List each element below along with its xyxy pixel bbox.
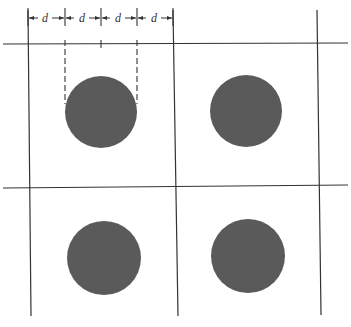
dimension-segment-3: d [102, 11, 136, 25]
arrow-left-icon [138, 16, 143, 20]
arrow-left-icon [29, 16, 34, 20]
dimension-label-d: d [151, 11, 158, 25]
grid-vertical-left [28, 10, 31, 316]
dimension-segment-1: d [29, 11, 64, 25]
arrow-left-icon [102, 16, 107, 20]
arrow-right-icon [95, 16, 100, 20]
grid-vertical-middle [173, 10, 178, 316]
particle-top-right [210, 75, 282, 147]
dimension-label-d: d [42, 11, 49, 25]
arrow-right-icon [59, 16, 64, 20]
grid-vertical-right [317, 10, 321, 315]
arrow-right-icon [131, 16, 136, 20]
particle-top-left [65, 76, 137, 148]
dimension-label-d: d [115, 11, 122, 25]
dimension-segment-2: d [66, 11, 100, 25]
particle-bottom-right [211, 219, 285, 293]
arrow-left-icon [66, 16, 71, 20]
particle-bottom-left [67, 221, 141, 295]
dimension-segment-4: d [138, 11, 172, 25]
grid-horizontal-top [3, 43, 348, 44]
arrow-right-icon [167, 16, 172, 20]
dimension-label-d: d [79, 11, 86, 25]
lattice-diagram: d d d d [0, 0, 351, 327]
